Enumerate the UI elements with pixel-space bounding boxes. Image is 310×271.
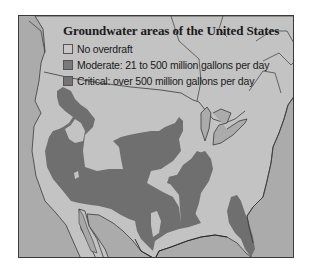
legend-item-critical: Critical: over 500 million gallons per d… [63, 74, 279, 88]
legend-item-no-overdraft: No overdraft [63, 42, 279, 56]
map-title: Groundwater areas of the United States [63, 23, 279, 39]
swatch-no-overdraft [63, 44, 73, 54]
legend-item-moderate: Moderate: 21 to 500 million gallons per … [63, 58, 279, 72]
legend-label: Critical: over 500 million gallons per d… [77, 75, 254, 87]
legend-label: Moderate: 21 to 500 million gallons per … [77, 59, 269, 71]
swatch-critical [63, 76, 73, 86]
legend-label: No overdraft [77, 43, 132, 55]
map-legend: Groundwater areas of the United States N… [63, 23, 279, 90]
swatch-moderate [63, 60, 73, 70]
